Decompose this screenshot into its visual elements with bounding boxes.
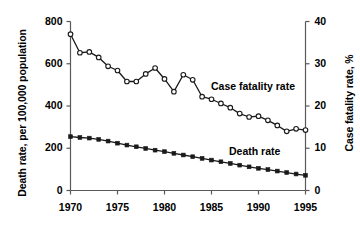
series-annotation-case-fatality-rate: Case fatality rate — [211, 80, 295, 92]
series-annotation-death-rate: Death rate — [229, 145, 280, 157]
plot-area — [0, 0, 360, 226]
chart-figure: Death rate, per 100,000 population Case … — [0, 0, 360, 226]
